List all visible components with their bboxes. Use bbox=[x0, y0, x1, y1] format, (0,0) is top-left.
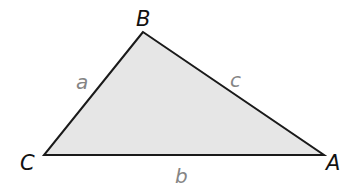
triangle-diagram: B C A a c b bbox=[0, 0, 361, 194]
side-label-c: c bbox=[230, 68, 241, 92]
vertex-label-c: C bbox=[20, 151, 35, 175]
vertex-label-b: B bbox=[136, 7, 150, 31]
side-label-a: a bbox=[76, 70, 88, 94]
side-label-b: b bbox=[175, 164, 188, 188]
vertex-label-a: A bbox=[324, 151, 340, 175]
